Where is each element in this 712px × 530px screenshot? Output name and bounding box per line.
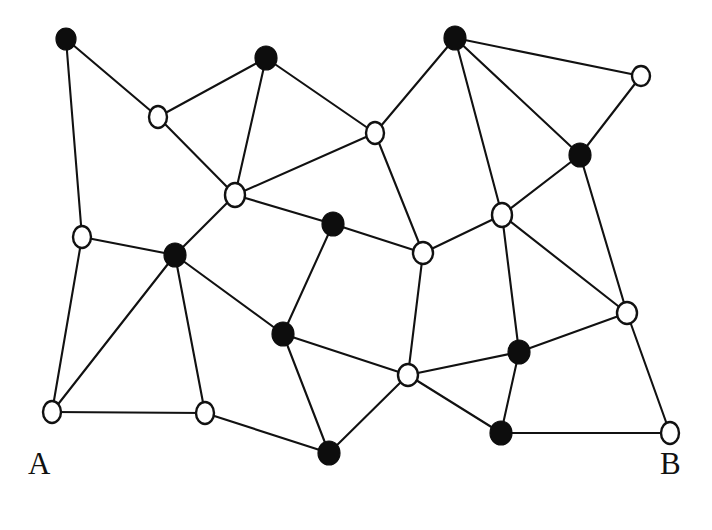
graph-edge — [235, 195, 333, 224]
graph-edge — [66, 39, 158, 117]
graph-edge — [175, 255, 205, 413]
graph-node-open — [225, 183, 245, 207]
graph-edge — [455, 38, 580, 155]
graph-edge — [627, 313, 670, 433]
graph-node-filled — [164, 243, 186, 267]
graph-node-filled — [490, 421, 512, 445]
graph-edge — [519, 313, 627, 352]
graph-node-open — [73, 226, 91, 248]
graph-edge — [283, 224, 333, 334]
graph-edge — [82, 237, 175, 255]
graph-node-open — [632, 66, 650, 86]
graph-edge — [52, 412, 205, 413]
graph-edge — [375, 38, 455, 133]
graph-node-filled — [444, 26, 466, 50]
graph-node-filled — [508, 340, 530, 364]
graph-node-filled — [322, 212, 344, 236]
graph-node-filled — [255, 46, 277, 70]
graph-edge — [283, 334, 329, 453]
graph-edge — [408, 253, 423, 375]
graph-edge — [175, 255, 283, 334]
graph-edge — [502, 215, 519, 352]
graph-edge — [408, 352, 519, 375]
graph-node-open — [366, 122, 384, 144]
graph-node-open — [492, 203, 512, 227]
corner-label-b: B — [660, 448, 681, 479]
graph-edge — [52, 255, 175, 412]
graph-node-open — [196, 402, 214, 424]
graph-edge — [375, 133, 423, 253]
graph-edge — [266, 58, 375, 133]
graph-edge — [158, 117, 235, 195]
graph-edge — [502, 215, 627, 313]
graph-node-open — [149, 106, 167, 128]
graph-node-open — [413, 242, 433, 264]
graph-edge — [235, 58, 266, 195]
graph-node-filled — [56, 28, 76, 50]
node-layer — [43, 26, 679, 465]
edge-layer — [52, 38, 670, 453]
graph-edge — [52, 237, 82, 412]
graph-node-filled — [272, 322, 294, 346]
corner-label-a: A — [28, 448, 51, 479]
graph-node-open — [43, 401, 61, 423]
graph-node-filled — [318, 441, 340, 465]
graph-edge — [283, 334, 408, 375]
graph-edge — [408, 375, 501, 433]
graph-edge — [580, 155, 627, 313]
graph-node-filled — [569, 143, 591, 167]
graph-edge — [235, 133, 375, 195]
graph-edge — [423, 215, 502, 253]
graph-edge — [329, 375, 408, 453]
graph-edge — [580, 76, 641, 155]
graph-edge — [455, 38, 641, 76]
graph-edge — [502, 155, 580, 215]
graph-edge — [333, 224, 423, 253]
graph-edge — [158, 58, 266, 117]
graph-node-open — [661, 422, 679, 444]
graph-edge — [175, 195, 235, 255]
graph-edge — [205, 413, 329, 453]
graph-node-open — [398, 364, 418, 386]
graph-node-open — [617, 302, 637, 324]
graph-canvas — [0, 0, 712, 530]
graph-edge — [66, 39, 82, 237]
graph-figure: A B — [0, 0, 712, 530]
graph-edge — [455, 38, 502, 215]
